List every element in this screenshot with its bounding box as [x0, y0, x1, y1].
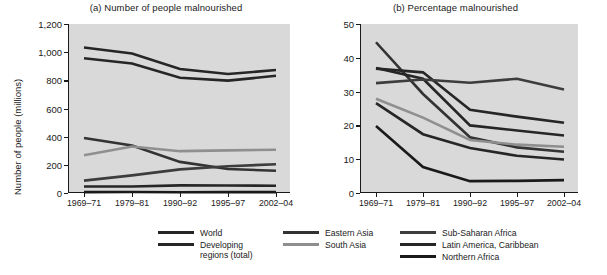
x-tick-mark: [376, 193, 377, 197]
chart-legend: WorldDeveloping regions (total) Eastern …: [0, 228, 607, 275]
legend-item-label: Latin America, Caribbean: [442, 240, 539, 250]
panel-a-number-malnourished: (a) Number of people malnourished Number…: [0, 0, 310, 225]
y-tick-label: 1,000: [38, 47, 62, 58]
legend-item-label: Northern Africa: [442, 252, 499, 262]
legend-column-1: WorldDeveloping regions (total): [158, 228, 253, 262]
x-tick-mark: [228, 193, 229, 197]
x-tick-label: 1979–81: [406, 198, 440, 208]
x-tick-mark: [132, 193, 133, 197]
legend-color-swatch: [283, 231, 319, 234]
x-tick-label: 2002–04: [259, 198, 293, 208]
malnourishment-figure: (a) Number of people malnourished Number…: [0, 0, 607, 275]
series-line-south-asia: [84, 147, 276, 156]
panel-a-y-axis-label: Number of people (millions): [12, 79, 23, 195]
legend-item-label: Sub-Saharan Africa: [442, 228, 517, 238]
panel-b-title: (b) Percentage malnourished: [310, 2, 607, 13]
series-line-eastern-asia: [376, 42, 564, 152]
panel-b-plot-area: 01020304050 1969–711979–811990–921995–97…: [360, 24, 578, 193]
legend-item-label: World: [200, 228, 222, 238]
legend-color-swatch: [158, 231, 194, 234]
legend-color-swatch: [283, 243, 319, 246]
x-tick-mark: [180, 193, 181, 197]
x-tick-label: 1979–81: [115, 198, 149, 208]
legend-item-label: South Asia: [325, 240, 366, 250]
y-tick-label: 20: [343, 120, 354, 131]
x-tick-label: 1995–97: [211, 198, 245, 208]
legend-color-swatch: [400, 231, 436, 234]
legend-column-3: Sub-Saharan AfricaLatin America, Caribbe…: [400, 228, 539, 264]
x-tick-label: 2002–04: [547, 198, 581, 208]
legend-item[interactable]: World: [158, 228, 253, 238]
x-tick-label: 1995–97: [500, 198, 534, 208]
y-tick-label: 200: [46, 159, 62, 170]
y-tick-label: 40: [343, 52, 354, 63]
series-line-sub-saharan-africa: [84, 164, 276, 180]
x-tick-label: 1990–92: [163, 198, 197, 208]
legend-item[interactable]: Northern Africa: [400, 252, 539, 262]
panel-b-series-lines: [360, 24, 578, 193]
legend-item[interactable]: Latin America, Caribbean: [400, 240, 539, 250]
y-tick-mark: [64, 193, 68, 194]
x-tick-label: 1969–71: [67, 198, 101, 208]
legend-item-label: Eastern Asia: [325, 228, 373, 238]
legend-color-swatch: [158, 243, 194, 246]
y-tick-label: 400: [46, 131, 62, 142]
series-line-developing-regions-total: [376, 69, 564, 123]
series-line-sub-saharan-africa: [376, 79, 564, 90]
series-line-northern-africa: [376, 126, 564, 181]
series-line-latin-america-caribbean: [84, 185, 276, 186]
legend-color-swatch: [400, 255, 436, 258]
y-tick-label: 30: [343, 86, 354, 97]
y-tick-label: 600: [46, 103, 62, 114]
y-tick-mark: [356, 193, 360, 194]
panel-a-series-lines: [68, 24, 290, 193]
legend-color-swatch: [400, 243, 436, 246]
x-tick-label: 1969–71: [359, 198, 393, 208]
x-tick-mark: [423, 193, 424, 197]
legend-item-label: Developing regions (total): [200, 240, 253, 260]
y-tick-label: 0: [57, 188, 62, 199]
panel-a-plot-area: 02004006008001,0001,200 1969–711979–8119…: [68, 24, 290, 193]
x-tick-mark: [470, 193, 471, 197]
y-tick-label: 1,200: [38, 19, 62, 30]
legend-item[interactable]: South Asia: [283, 240, 373, 250]
x-tick-mark: [84, 193, 85, 197]
y-tick-label: 800: [46, 75, 62, 86]
series-line-world: [376, 68, 564, 136]
legend-column-2: Eastern AsiaSouth Asia: [283, 228, 373, 252]
y-tick-label: 10: [343, 154, 354, 165]
x-tick-label: 1990–92: [453, 198, 487, 208]
panel-b-percentage-malnourished: (b) Percentage malnourished Percentage 0…: [310, 0, 607, 225]
x-tick-mark: [564, 193, 565, 197]
panel-a-title: (a) Number of people malnourished: [0, 2, 310, 13]
x-tick-mark: [276, 193, 277, 197]
x-tick-mark: [517, 193, 518, 197]
legend-item[interactable]: Eastern Asia: [283, 228, 373, 238]
legend-item[interactable]: Sub-Saharan Africa: [400, 228, 539, 238]
legend-item[interactable]: Developing regions (total): [158, 240, 253, 260]
y-tick-label: 50: [343, 19, 354, 30]
y-tick-label: 0: [349, 188, 354, 199]
